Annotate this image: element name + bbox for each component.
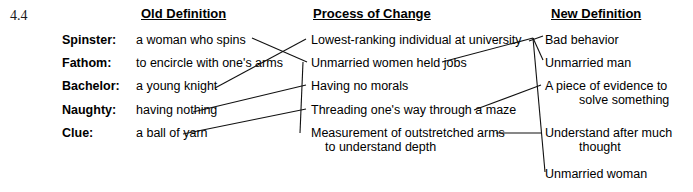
old-definition-spinster: a woman who spins bbox=[136, 33, 246, 47]
term-fathom: Fathom: bbox=[62, 56, 111, 70]
column-header-process-of-change: Process of Change bbox=[313, 6, 431, 21]
term-spinster: Spinster: bbox=[62, 33, 116, 47]
new-definition-3-line1: A piece of evidence to bbox=[545, 79, 667, 93]
word-history-diagram: 4.4 Old Definition Process of Change New… bbox=[0, 0, 693, 192]
column-header-old-definition: Old Definition bbox=[141, 6, 226, 21]
new-definition-1-line1: Bad behavior bbox=[545, 33, 619, 47]
term-clue: Clue: bbox=[62, 126, 93, 140]
process-item-4: Threading one's way through a maze bbox=[311, 103, 516, 117]
process-item-1-line1: Lowest-ranking individual at university bbox=[311, 33, 522, 47]
old-definition-naughty: having nothing bbox=[136, 103, 217, 117]
old-definition-fathom: to encircle with one's arms bbox=[136, 56, 283, 70]
process-item-2-line1: Unmarried women held jobs bbox=[311, 56, 467, 70]
new-definition-3: A piece of evidence to solve something bbox=[545, 79, 669, 107]
new-definition-2-line1: Unmarried man bbox=[545, 56, 631, 70]
figure-number: 4.4 bbox=[10, 8, 28, 24]
process-item-4-line1: Threading one's way through a maze bbox=[311, 103, 516, 117]
new-definition-2: Unmarried man bbox=[545, 56, 631, 70]
new-definition-5: Unmarried woman bbox=[545, 167, 647, 181]
term-bachelor: Bachelor: bbox=[62, 79, 120, 93]
new-definition-5-line1: Unmarried woman bbox=[545, 167, 647, 181]
process-item-2: Unmarried women held jobs bbox=[311, 56, 467, 70]
new-definition-4-line2: thought bbox=[545, 140, 672, 154]
process-item-3: Having no morals bbox=[311, 79, 408, 93]
column-header-new-definition: New Definition bbox=[551, 6, 641, 21]
new-definition-4: Understand after much thought bbox=[545, 126, 672, 154]
new-definition-4-line1: Understand after much bbox=[545, 126, 672, 140]
link-junction-to-unmarried-man bbox=[533, 38, 543, 60]
new-definition-3-line2: solve something bbox=[545, 93, 669, 107]
process-item-3-line1: Having no morals bbox=[311, 79, 408, 93]
link-no-morals-to-unmarried-woman bbox=[533, 38, 545, 172]
process-item-5-line2: to understand depth bbox=[311, 140, 505, 154]
old-definition-bachelor: a young knight bbox=[136, 79, 217, 93]
link-arms-to-measurement bbox=[300, 62, 303, 133]
term-naughty: Naughty: bbox=[62, 103, 116, 117]
new-definition-1: Bad behavior bbox=[545, 33, 619, 47]
process-item-5: Measurement of outstretched arms to unde… bbox=[311, 126, 505, 154]
old-definition-clue: a ball of yarn bbox=[136, 126, 208, 140]
process-item-5-line1: Measurement of outstretched arms bbox=[311, 126, 505, 140]
process-item-1: Lowest-ranking individual at university bbox=[311, 33, 522, 47]
link-lowest-to-bad-behavior bbox=[529, 36, 543, 41]
